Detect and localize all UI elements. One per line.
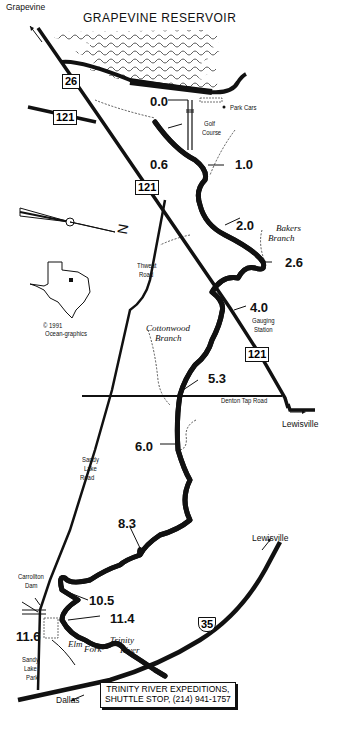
- label-thweat-road-2: Road: [139, 271, 153, 278]
- label-park-cars: Park Cars: [230, 104, 256, 111]
- label-denton-tap-road: Denton Tap Road: [221, 397, 267, 404]
- interstate-shield-35: 35: [198, 617, 216, 632]
- label-sandy-lake-park-3: Park: [26, 674, 38, 681]
- map-drawing: [0, 0, 342, 730]
- river-mile-8-3: 8.3: [118, 517, 136, 530]
- river-mile-0-6: 0.6: [150, 158, 168, 171]
- label-gauging-station-2: Station: [254, 326, 273, 333]
- interstate-35: [18, 542, 280, 700]
- river-mile-0-0: 0.0: [150, 95, 168, 108]
- label-cottonwood-branch-1: Cottonwood: [146, 324, 190, 333]
- river-mile-6-0: 6.0: [135, 440, 153, 453]
- shuttle-stop-callout: TRINITY RIVER EXPEDITIONS, SHUTTLE STOP,…: [100, 682, 236, 708]
- inset-credit: Ocean-graphics: [45, 330, 87, 337]
- label-gauging-station-1: Gauging: [252, 317, 274, 324]
- label-sandy-lake-road-1: Sandy: [82, 456, 99, 463]
- label-golf-course-2: Course: [202, 129, 221, 136]
- map-title: GRAPEVINE RESERVOIR: [83, 12, 236, 24]
- label-bakers-branch-1: Bakers: [276, 224, 301, 233]
- label-elm-fork-1: Elm: [68, 640, 83, 649]
- label-golf-course-1: Golf: [204, 120, 215, 127]
- river-mile-5-3: 5.3: [208, 372, 226, 385]
- label-lewisville-east: Lewisville: [282, 420, 318, 429]
- compass-north-label: N: [115, 223, 131, 235]
- river-map: Grapevine GRAPEVINE RESERVOIR 26 121 121…: [0, 0, 342, 730]
- label-carrollton-dam-2: Dam: [25, 582, 38, 589]
- label-trinity-river-1: Trinity: [110, 636, 134, 645]
- label-trinity-river-2: River: [120, 646, 140, 655]
- label-thweat-road-1: Thweat: [137, 262, 157, 269]
- highway-shield-26: 26: [62, 74, 80, 89]
- label-carrollton-dam-1: Carrollton: [18, 573, 44, 580]
- compass-rose: [20, 208, 115, 232]
- label-sandy-lake-park-2: Lake: [24, 665, 37, 672]
- callout-line-2: SHUTTLE STOP, (214) 941-1757: [105, 695, 231, 705]
- texas-inset-map: [30, 262, 90, 318]
- river-mile-2-6: 2.6: [285, 256, 303, 269]
- label-sandy-lake-road-3: Road: [80, 474, 94, 481]
- highway-shield-121-south: 121: [245, 347, 269, 362]
- river-mile-2-0: 2.0: [236, 219, 254, 232]
- label-dallas: Dallas: [56, 696, 80, 705]
- label-sandy-lake-road-2: Lake: [84, 465, 97, 472]
- highway-shield-121-west: 121: [53, 110, 77, 125]
- river-mile-1-0: 1.0: [235, 158, 253, 171]
- river-mile-4-0: 4.0: [250, 301, 268, 314]
- label-elm-fork-2: Fork: [84, 645, 102, 654]
- inset-copyright: © 1991: [43, 322, 62, 329]
- highway-shield-121-mid: 121: [135, 180, 159, 195]
- label-lewisville-ne: Lewisville: [252, 534, 288, 543]
- river-mile-11-4: 11.4: [110, 612, 135, 625]
- label-sandy-lake-park-1: Sandy: [22, 656, 39, 663]
- label-cottonwood-branch-2: Branch: [155, 334, 182, 343]
- river-mile-11-6: 11.6: [16, 630, 41, 643]
- label-bakers-branch-2: Branch: [268, 234, 295, 243]
- label-grapevine: Grapevine: [6, 3, 45, 12]
- river-mile-10-5: 10.5: [89, 594, 114, 607]
